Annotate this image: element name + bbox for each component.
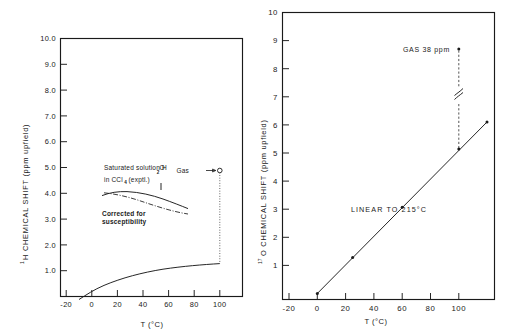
- left-x-tick-labels: -20 0 20 40 60 80 100: [60, 300, 226, 309]
- left-ytick-8: 8.0: [45, 86, 56, 95]
- right-x-ticks: [289, 293, 459, 300]
- annotation-saturated-oxygen: O: [160, 164, 165, 171]
- left-plot-svg: 10.0 9.0 8.0 7.0 6.0 5.0 4.0 3.0 2.0 1.0: [0, 0, 254, 336]
- annotation-gas-38ppm: GAS 38 ppm: [403, 46, 450, 54]
- right-xtick-0: 0: [315, 304, 320, 313]
- left-y-axis-superscript: 1: [19, 261, 25, 264]
- right-ytick-6: 6: [273, 121, 278, 130]
- right-ytick-1: 1: [273, 261, 278, 270]
- right-x-tick-labels: -20 0 20 40 60 80 100: [283, 304, 467, 313]
- left-ytick-5: 5.0: [45, 163, 56, 172]
- data-point-25c: [351, 256, 354, 259]
- data-point-120c: [486, 121, 489, 124]
- left-xtick-100: 100: [213, 300, 226, 309]
- left-ytick-6: 6.0: [45, 137, 56, 146]
- left-xtick-80: 80: [190, 300, 199, 309]
- left-y-axis-title-main: H CHEMICAL SHIFT (ppm upfield): [21, 124, 30, 260]
- right-y-axis-superscript: 17: [257, 258, 263, 264]
- right-y-ticks: [283, 13, 290, 266]
- annotation-corrected-line2: susceptibility: [102, 218, 147, 226]
- annotation-gas-label: Gas: [176, 167, 189, 174]
- right-xtick-20: 20: [341, 304, 351, 313]
- left-xtick-0: 0: [90, 300, 94, 309]
- right-plot-svg: 10 9 8 7 6 5 4 3 2 1: [254, 0, 509, 336]
- right-ytick-3: 3: [273, 205, 278, 214]
- right-xtick-60: 60: [397, 304, 407, 313]
- left-xtick-20: 20: [113, 300, 122, 309]
- annotation-linear-to-215: LINEAR TO 215°C: [351, 205, 427, 214]
- left-x-axis-title: T (°C): [140, 320, 163, 329]
- right-ytick-10: 10: [268, 8, 278, 17]
- axis-break-symbol: [455, 89, 464, 100]
- right-plot-frame: [283, 13, 495, 300]
- right-y-axis-title: 17 O CHEMICAL SHIFT (ppm upfield): [257, 119, 269, 264]
- annotation-saturated-subscript-2: 2: [157, 170, 160, 175]
- figure-container: 10.0 9.0 8.0 7.0 6.0 5.0 4.0 3.0 2.0 1.0: [0, 0, 509, 336]
- left-y-axis-title: 1 H CHEMICAL SHIFT (ppm upfield): [19, 124, 31, 264]
- right-y-axis-title-main: O CHEMICAL SHIFT (ppm upfield): [259, 119, 268, 256]
- left-xtick-60: 60: [164, 300, 173, 309]
- left-y-tick-labels: 10.0 9.0 8.0 7.0 6.0 5.0 4.0 3.0 2.0 1.0: [40, 34, 56, 275]
- right-xtick-100: 100: [451, 304, 466, 313]
- right-y-tick-labels: 10 9 8 7 6 5 4 3 2 1: [268, 8, 278, 270]
- right-xtick-40: 40: [369, 304, 379, 313]
- left-ytick-9: 9.0: [45, 60, 56, 69]
- left-y-ticks: [61, 39, 68, 271]
- right-x-axis-title: T (°C): [364, 317, 387, 326]
- left-xtick-40: 40: [139, 300, 148, 309]
- left-xtick-neg20: -20: [60, 300, 72, 309]
- right-xtick-neg20: -20: [283, 304, 296, 313]
- left-ytick-1: 1.0: [45, 266, 56, 275]
- left-ytick-3: 3.0: [45, 215, 56, 224]
- right-ytick-9: 9: [273, 36, 278, 45]
- right-ytick-5: 5: [273, 149, 278, 158]
- right-ytick-4: 4: [273, 177, 278, 186]
- right-ytick-7: 7: [273, 93, 278, 102]
- gas-marker-17o-dot: [457, 48, 460, 51]
- annotation-saturated-exptl: (exptl.): [129, 176, 150, 184]
- annotation-corrected-line1: Corrected for: [102, 210, 146, 217]
- left-ytick-10: 10.0: [40, 34, 56, 43]
- annotation-saturated-subscript-4: 4: [124, 180, 127, 185]
- left-ytick-4: 4.0: [45, 189, 56, 198]
- right-plot-panel: 10 9 8 7 6 5 4 3 2 1: [254, 0, 509, 336]
- right-ytick-2: 2: [273, 233, 278, 242]
- right-ytick-8: 8: [273, 65, 278, 74]
- left-plot-panel: 10.0 9.0 8.0 7.0 6.0 5.0 4.0 3.0 2.0 1.0: [0, 0, 254, 336]
- data-point-0c: [316, 292, 319, 295]
- annotation-saturated-line2: in CCl: [104, 176, 123, 183]
- gas-marker-open-circle: [218, 168, 223, 173]
- left-ytick-2: 2.0: [45, 241, 56, 250]
- liquid-water-shift-curve: [79, 264, 220, 300]
- right-xtick-80: 80: [426, 304, 436, 313]
- left-ytick-7: 7.0: [45, 112, 56, 121]
